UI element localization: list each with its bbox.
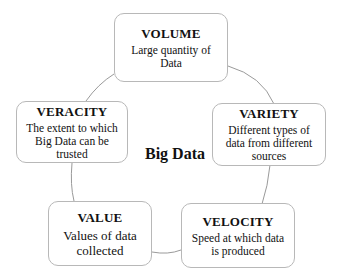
node-velocity-title: VELOCITY — [203, 214, 274, 230]
node-value: VALUE Values of data collected — [48, 201, 152, 266]
connector-volume-variety — [228, 66, 274, 104]
node-volume: VOLUME Large quantity of Data — [114, 13, 228, 82]
connector-value-veracity — [71, 163, 74, 201]
node-value-title: VALUE — [78, 210, 123, 226]
node-variety-title: VARIETY — [239, 106, 299, 122]
node-volume-description: Large quantity of Data — [125, 44, 217, 70]
connector-veracity-volume — [86, 74, 114, 101]
node-veracity-title: VERACITY — [37, 104, 108, 120]
node-veracity-description: The extent to which Big Data can be trus… — [21, 122, 123, 161]
node-variety-description: Different types of data from different s… — [219, 124, 319, 163]
node-velocity-description: Speed at which data is produced — [187, 232, 289, 258]
node-variety: VARIETY Different types of data from dif… — [212, 103, 326, 166]
node-velocity: VELOCITY Speed at which data is produced — [181, 203, 295, 268]
connector-variety-velocity — [262, 165, 270, 204]
center-label-big-data: Big Data — [140, 145, 210, 163]
node-value-description: Values of data collected — [53, 228, 147, 258]
connector-velocity-value — [152, 250, 181, 253]
node-volume-title: VOLUME — [141, 26, 200, 42]
node-veracity: VERACITY The extent to which Big Data ca… — [16, 101, 128, 163]
